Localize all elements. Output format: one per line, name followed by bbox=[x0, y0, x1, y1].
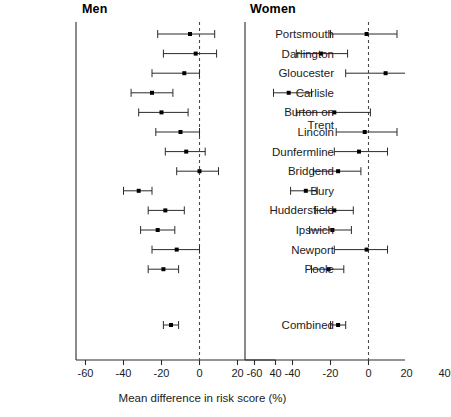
study-label-huddersfield: Huddersfield bbox=[269, 204, 334, 216]
study-label-carlisle: Carlisle bbox=[296, 87, 334, 99]
x-tick-label-women--40: -40 bbox=[285, 367, 301, 379]
study-label-gloucester: Gloucester bbox=[278, 67, 334, 79]
data-row bbox=[334, 246, 387, 254]
study-label-newport: Newport bbox=[291, 244, 334, 256]
data-row bbox=[163, 321, 178, 329]
x-tick-label-women-40: 40 bbox=[438, 367, 450, 379]
point-estimate-marker bbox=[175, 248, 179, 252]
panel-men bbox=[76, 22, 276, 365]
point-estimate-marker bbox=[184, 150, 188, 154]
x-tick-label-women--60: -60 bbox=[247, 367, 263, 379]
point-estimate-marker bbox=[194, 52, 198, 56]
data-row bbox=[139, 108, 188, 116]
point-estimate-marker bbox=[161, 267, 165, 271]
point-estimate-marker bbox=[198, 169, 202, 173]
data-row bbox=[346, 69, 405, 77]
x-axis-title: Mean difference in risk score (%) bbox=[0, 392, 405, 404]
data-row bbox=[163, 50, 216, 58]
study-label-bridgend: Bridgend bbox=[288, 165, 334, 177]
data-row bbox=[148, 265, 178, 273]
point-estimate-marker bbox=[179, 130, 183, 134]
point-estimate-marker bbox=[163, 208, 167, 212]
study-label-dunfermline: Dunfermline bbox=[272, 146, 334, 158]
point-estimate-marker bbox=[188, 32, 192, 36]
x-tick-label-women--20: -20 bbox=[323, 367, 339, 379]
study-label-ipswich: Ipswich bbox=[296, 224, 334, 236]
x-tick-label-men--20: -20 bbox=[154, 367, 170, 379]
data-row bbox=[148, 206, 184, 214]
point-estimate-marker bbox=[137, 189, 141, 193]
study-label-darlington: Darlington bbox=[282, 48, 334, 60]
point-estimate-marker bbox=[156, 228, 160, 232]
x-tick-label-men-20: 20 bbox=[231, 367, 243, 379]
point-estimate-marker bbox=[336, 169, 340, 173]
data-row bbox=[152, 246, 200, 254]
x-tick-label-men-40: 40 bbox=[269, 367, 281, 379]
x-tick-label-men-0: 0 bbox=[196, 367, 202, 379]
point-estimate-marker bbox=[384, 71, 388, 75]
data-row bbox=[177, 167, 219, 175]
point-estimate-marker bbox=[169, 323, 173, 327]
point-estimate-marker bbox=[363, 130, 367, 134]
study-label-bury: Bury bbox=[310, 185, 334, 197]
data-row bbox=[124, 187, 153, 195]
study-label-lincoln: Lincoln bbox=[298, 126, 334, 138]
point-estimate-marker bbox=[357, 150, 361, 154]
data-row bbox=[131, 89, 173, 97]
point-estimate-marker bbox=[160, 110, 164, 114]
study-label-portsmouth: Portsmouth bbox=[275, 28, 334, 40]
data-row bbox=[331, 30, 398, 38]
point-estimate-marker bbox=[336, 323, 340, 327]
data-row bbox=[156, 128, 200, 136]
data-row bbox=[152, 69, 200, 77]
point-estimate-marker bbox=[182, 71, 186, 75]
study-label-poole: Poole bbox=[305, 263, 334, 275]
data-row bbox=[158, 30, 215, 38]
point-estimate-marker bbox=[365, 32, 369, 36]
x-tick-label-men--40: -40 bbox=[116, 367, 132, 379]
panel-title-women: Women bbox=[250, 2, 296, 16]
x-tick-label-women-0: 0 bbox=[365, 367, 371, 379]
point-estimate-marker bbox=[365, 248, 369, 252]
point-estimate-marker bbox=[287, 91, 291, 95]
point-estimate-marker bbox=[304, 189, 308, 193]
study-label-combined: Combined bbox=[282, 319, 334, 331]
panel-title-men: Men bbox=[82, 2, 108, 16]
x-tick-label-women-20: 20 bbox=[400, 367, 412, 379]
point-estimate-marker bbox=[150, 91, 154, 95]
data-row bbox=[334, 148, 387, 156]
data-row bbox=[336, 128, 397, 136]
x-tick-label-men--60: -60 bbox=[78, 367, 94, 379]
data-row bbox=[141, 226, 175, 234]
